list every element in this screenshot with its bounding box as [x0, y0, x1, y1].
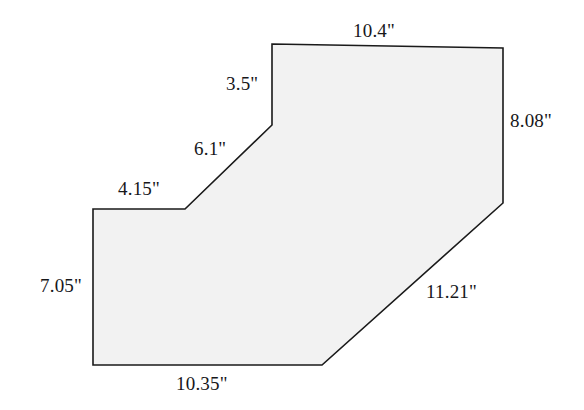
polygon-figure — [0, 0, 584, 410]
dimension-label-upper-left-edge: 3.5" — [226, 74, 258, 93]
diagram-canvas: 10.4" 3.5" 8.08" 6.1" 4.15" 7.05" 11.21"… — [0, 0, 584, 410]
dimension-label-right-edge: 8.08" — [510, 111, 552, 130]
dimension-label-top-edge: 10.4" — [353, 21, 395, 40]
dimension-label-lower-diagonal-edge: 11.21" — [426, 282, 477, 301]
dimension-label-middle-diagonal-edge: 6.1" — [194, 139, 226, 158]
dimension-label-left-edge: 7.05" — [40, 276, 82, 295]
dimension-label-bottom-edge: 10.35" — [176, 374, 228, 393]
dimension-label-step-top-edge: 4.15" — [118, 179, 160, 198]
polygon-shape — [93, 44, 503, 365]
